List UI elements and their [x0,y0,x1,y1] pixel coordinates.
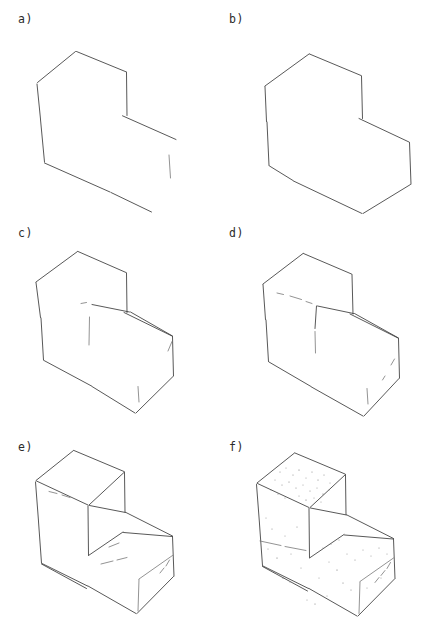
panel-f-drawing [211,428,422,642]
panel-a-drawing [0,0,211,214]
panel-b: b) [211,0,422,214]
speckle-texture [266,468,388,605]
panel-b-drawing [211,0,422,214]
figure-sequence: a) b) [0,0,423,642]
panel-e: e) [0,428,211,642]
panel-a: a) [0,0,211,214]
panel-e-drawing [0,428,211,642]
panel-f: f) [211,428,422,642]
panel-c-drawing [0,214,211,428]
panel-c: c) [0,214,211,428]
panel-d-drawing [211,214,422,428]
panel-d: d) [211,214,422,428]
